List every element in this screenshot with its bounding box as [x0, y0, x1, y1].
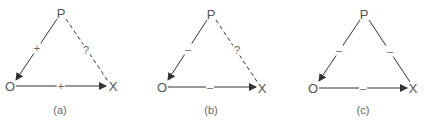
panel-caption: (b) [204, 105, 217, 116]
edge-label-p-x: ? [82, 45, 90, 56]
node-o: O [308, 82, 318, 95]
node-o: O [5, 80, 15, 93]
edge-label-p-x: ? [233, 45, 241, 56]
panel-caption: (a) [53, 105, 66, 116]
panel-caption: (c) [357, 105, 370, 116]
node-x: X [258, 82, 267, 95]
edge-label-o-x: – [206, 82, 214, 93]
edge-label-p-o: + [33, 43, 41, 54]
diagram-panel-a: P O X + ? + (a) [0, 0, 141, 123]
edge-label-p-x: – [386, 46, 394, 57]
diagram-panel-c: P O X – – – (c) [282, 0, 424, 123]
edge-label-o-x: + [57, 81, 65, 92]
diagram-panel-b: P O X – ? – (b) [141, 0, 282, 123]
edge-label-o-x: – [359, 83, 367, 94]
triangle-edges-c [282, 0, 424, 123]
node-o: O [157, 81, 167, 94]
node-p: P [207, 8, 216, 21]
node-p: P [360, 8, 369, 21]
edge-label-p-o: – [335, 45, 343, 56]
triangle-edges-a [0, 0, 141, 123]
node-p: P [57, 7, 66, 20]
node-x: X [109, 80, 118, 93]
node-x: X [409, 82, 418, 95]
edge-label-p-o: – [184, 44, 192, 55]
